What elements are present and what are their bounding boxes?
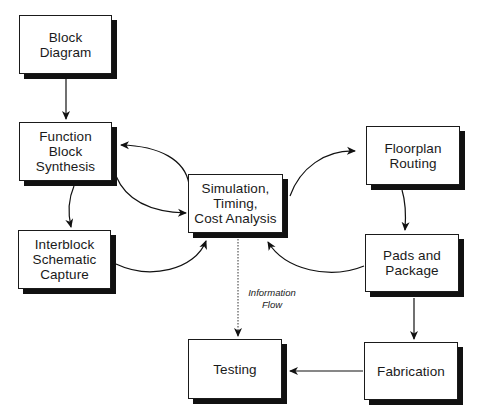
edge-interblock-to-simulation bbox=[116, 241, 206, 272]
edge-pads-to-simulation bbox=[268, 242, 364, 272]
node-label: Pads and Package bbox=[383, 248, 441, 278]
edge-simulation-to-floorplan bbox=[290, 151, 355, 196]
edge-function-block-synthesis-to-simulation bbox=[116, 176, 186, 213]
node-floorplan-routing: Floorplan Routing bbox=[366, 126, 460, 185]
node-label: Floorplan Routing bbox=[384, 141, 441, 171]
node-interblock-schematic-capture: Interblock Schematic Capture bbox=[18, 230, 111, 289]
edge-floorplan-to-pads bbox=[402, 190, 406, 230]
node-fabrication: Fabrication bbox=[364, 342, 458, 400]
node-function-block-synthesis: Function Block Synthesis bbox=[19, 122, 112, 181]
edge-function-block-synthesis-to-interblock bbox=[69, 186, 74, 227]
node-pads-and-package: Pads and Package bbox=[365, 234, 459, 292]
node-block-diagram: Block Diagram bbox=[19, 15, 112, 74]
node-simulation-timing-cost-analysis: Simulation, Timing, Cost Analysis bbox=[188, 174, 283, 233]
node-testing: Testing bbox=[188, 339, 282, 399]
node-label: Function Block Synthesis bbox=[36, 129, 95, 174]
information-flow-label: Information Flow bbox=[244, 287, 300, 310]
edge-simulation-to-function-block-synthesis bbox=[121, 145, 189, 184]
design-flow-diagram: Block Diagram Function Block Synthesis I… bbox=[0, 0, 479, 419]
node-label: Testing bbox=[213, 362, 256, 377]
node-label: Fabrication bbox=[377, 364, 445, 379]
node-label: Interblock Schematic Capture bbox=[33, 237, 97, 282]
node-label: Block Diagram bbox=[40, 30, 92, 60]
node-label: Simulation, Timing, Cost Analysis bbox=[194, 181, 276, 226]
